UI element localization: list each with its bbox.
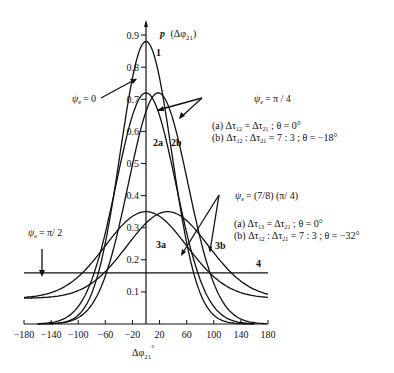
arrowhead-icon (157, 106, 164, 111)
x-tick-label: 20 (155, 329, 165, 340)
y-axis-arrow-icon (144, 20, 148, 27)
chart-svg: −180−140−100−60−202060100140180 0.10.20.… (0, 0, 394, 373)
x-tick-label: −100 (68, 329, 89, 340)
x-tick-label: 60 (182, 329, 192, 340)
annotation-psi-pi4: ψe= π / 4 (254, 93, 291, 105)
arrow-78-a (182, 195, 219, 254)
curve-label-4: 4 (256, 258, 261, 269)
y-tick-label: 0.3 (127, 222, 140, 233)
y-tick-label: 0.8 (127, 62, 140, 73)
y-tick-label: 0.7 (127, 94, 140, 105)
legend-group2-b: (b) Δτ12 : Δτ21 = 7 : 3 ; θ = −32° (234, 230, 360, 242)
x-tick-label: −20 (125, 329, 141, 340)
annotation-psi-pi2: ψe= π/ 2 (28, 227, 62, 239)
y-ticks: 0.10.20.30.40.50.60.70.80.9 (127, 30, 147, 298)
arrowhead-icon (179, 112, 185, 119)
x-tick-label: −60 (98, 329, 114, 340)
curve-label-3a: 3a (156, 239, 166, 250)
annotation-psi-0: ψe= 0 (72, 93, 96, 105)
curve-label-2a: 2a (153, 137, 163, 148)
curve-label-2b: 2b (171, 137, 182, 148)
curve-label-1: 1 (156, 47, 161, 58)
legend-group1-b: (b) Δτ12 : Δτ21 = 7 : 3 ; θ = −18° (212, 132, 338, 144)
y-axis-label: p (Δφ21) (159, 28, 196, 42)
x-tick-label: 140 (233, 329, 248, 340)
arrowhead-icon (181, 249, 186, 256)
legend-group2-a: (a) Δτ13 = Δτ21 ; θ = 0° (234, 218, 323, 230)
y-tick-label: 0.1 (127, 286, 140, 297)
y-tick-label: 0.9 (127, 30, 140, 41)
y-tick-label: 0.2 (127, 254, 140, 265)
y-tick-label: 0.4 (127, 190, 140, 201)
curve-label-3b: 3b (215, 240, 226, 251)
legend-group1-a: (a) Δτ12 = Δτ21 ; θ = 0° (212, 120, 301, 132)
x-tick-label: −140 (41, 329, 62, 340)
y-tick-label: 0.6 (127, 126, 140, 137)
x-tick-label: −180 (14, 329, 35, 340)
x-tick-label: 180 (261, 329, 276, 340)
x-axis-label: Δφ21° (132, 344, 154, 361)
annotation-psi-78: ψe= (7/8) (π/ 4) (235, 190, 298, 202)
y-tick-label: 0.5 (127, 158, 140, 169)
x-tick-label: 100 (206, 329, 221, 340)
